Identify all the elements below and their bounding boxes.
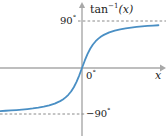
y-axis-arrowhead — [79, 2, 85, 8]
arctangent-figure: tan−1(x) 90° 0° −90° x — [0, 0, 166, 136]
function-name: tan — [90, 3, 108, 16]
function-argument: (x) — [118, 3, 133, 16]
y-tick-negative-90-value: −90 — [86, 108, 107, 119]
plot-area — [0, 0, 166, 136]
degree-symbol-negative-90: ° — [107, 107, 111, 115]
y-tick-label-negative-90: −90° — [86, 108, 111, 119]
degree-symbol-0: ° — [92, 69, 96, 77]
y-tick-label-90: 90° — [60, 15, 76, 26]
y-axis-function-label: tan−1(x) — [90, 3, 133, 15]
degree-symbol-90: ° — [73, 14, 77, 22]
x-axis-label: x — [155, 70, 161, 81]
function-exponent: −1 — [108, 2, 118, 10]
y-tick-90-value: 90 — [60, 15, 73, 26]
origin-label-0: 0° — [86, 70, 96, 81]
